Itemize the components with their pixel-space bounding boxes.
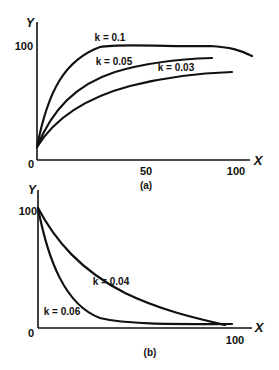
panel-b-caption: (b) xyxy=(144,347,157,358)
panel-b: Y 100 0 X 100 (b) k = 0.04 k = 0.06 xyxy=(19,183,265,358)
panel-b-x-label: X xyxy=(254,320,265,335)
figure: Y 100 0 X 50 100 (a) k = 0.1 k = 0.05 k … xyxy=(0,0,279,370)
panel-a-x-label: X xyxy=(253,153,264,168)
panel-a-caption: (a) xyxy=(140,180,152,191)
panel-a-y-tick-100: 100 xyxy=(15,40,33,52)
curve-a-k-0.1 xyxy=(37,45,252,147)
panel-b-x-tick-100: 100 xyxy=(226,334,244,346)
label-a-k-0.03: k = 0.03 xyxy=(158,62,195,73)
panel-a: Y 100 0 X 50 100 (a) k = 0.1 k = 0.05 k … xyxy=(15,16,264,191)
label-b-k-0.06: k = 0.06 xyxy=(44,306,81,317)
panel-a-x-tick-50: 50 xyxy=(140,165,152,177)
curve-a-k-0.03 xyxy=(37,72,232,147)
panel-b-y-label: Y xyxy=(28,183,37,197)
panel-b-origin-label: 0 xyxy=(28,327,34,339)
label-a-k-0.1: k = 0.1 xyxy=(95,32,126,43)
label-a-k-0.05: k = 0.05 xyxy=(96,56,133,67)
panel-a-origin-label: 0 xyxy=(28,158,34,170)
panel-a-y-label: Y xyxy=(26,16,35,30)
panel-b-y-tick-100: 100 xyxy=(19,205,37,217)
label-b-k-0.04: k = 0.04 xyxy=(93,276,130,287)
panel-a-x-tick-100: 100 xyxy=(227,165,245,177)
